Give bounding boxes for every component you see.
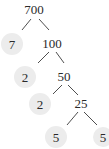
edge-50-2 — [53, 85, 62, 94]
edge-100-50 — [56, 52, 64, 63]
node-50: 50 — [58, 69, 71, 84]
edge-700-100 — [39, 19, 49, 30]
edge-25-5b — [84, 112, 97, 125]
edge-50-25 — [68, 85, 78, 95]
node-2a: 2 — [22, 70, 29, 85]
node-100: 100 — [42, 36, 62, 51]
node-700: 700 — [24, 2, 44, 17]
edge-25-5a — [67, 112, 78, 125]
node-labels: 700 7 100 2 50 2 25 5 5 — [9, 2, 107, 145]
node-7: 7 — [9, 37, 16, 52]
node-25: 25 — [75, 96, 88, 111]
node-5b: 5 — [100, 130, 107, 145]
factor-tree-diagram: 700 7 100 2 50 2 25 5 5 — [0, 0, 109, 149]
node-5a: 5 — [53, 130, 60, 145]
edge-100-2 — [38, 52, 49, 63]
node-2b: 2 — [37, 97, 44, 112]
edge-700-7 — [22, 19, 31, 30]
